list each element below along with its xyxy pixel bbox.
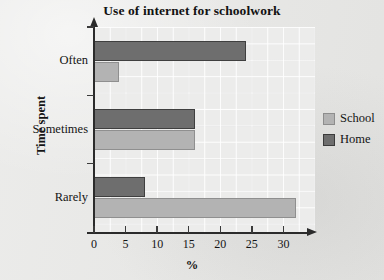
x-tick-label-15: 15 — [174, 237, 204, 252]
bar-school-rarely — [94, 198, 296, 218]
y-tick-1 — [87, 95, 94, 96]
x-tick-label-20: 20 — [205, 237, 235, 252]
bar-home-often — [94, 41, 246, 61]
plot-area — [94, 27, 315, 232]
x-axis-arrow-icon — [307, 228, 317, 236]
x-axis-label: % — [0, 258, 384, 273]
chart-legend: SchoolHome — [323, 108, 383, 150]
x-tick-0 — [93, 226, 94, 233]
bar-school-often — [94, 62, 119, 82]
legend-swatch-home-icon — [323, 134, 335, 146]
bar-home-rarely — [94, 177, 145, 197]
x-tick-label-25: 25 — [237, 237, 267, 252]
x-tick-30 — [283, 226, 284, 233]
y-axis-label: Time spent — [34, 71, 49, 181]
x-tick-5 — [125, 226, 126, 233]
legend-label-school: School — [340, 111, 375, 126]
bar-school-sometimes — [94, 130, 195, 150]
x-tick-label-10: 10 — [142, 237, 172, 252]
category-label-often: Often — [0, 53, 88, 68]
legend-item-home: Home — [323, 129, 383, 150]
x-tick-10 — [156, 226, 157, 233]
category-label-rarely: Rarely — [0, 190, 88, 205]
legend-swatch-school-icon — [323, 113, 335, 125]
x-tick-label-0: 0 — [79, 237, 109, 252]
x-tick-25 — [251, 226, 252, 233]
x-tick-label-30: 30 — [268, 237, 298, 252]
x-axis-line — [87, 232, 309, 234]
x-tick-label-5: 5 — [111, 237, 141, 252]
chart-title: Use of internet for schoolwork — [0, 3, 384, 19]
legend-item-school: School — [323, 108, 383, 129]
y-axis-line — [93, 25, 95, 234]
y-tick-2 — [87, 163, 94, 164]
x-tick-15 — [188, 226, 189, 233]
bar-home-sometimes — [94, 109, 195, 129]
y-tick-0 — [87, 26, 94, 27]
bar-chart: Use of internet for schoolwork 051015202… — [0, 0, 384, 280]
legend-label-home: Home — [340, 132, 371, 147]
x-tick-20 — [220, 226, 221, 233]
